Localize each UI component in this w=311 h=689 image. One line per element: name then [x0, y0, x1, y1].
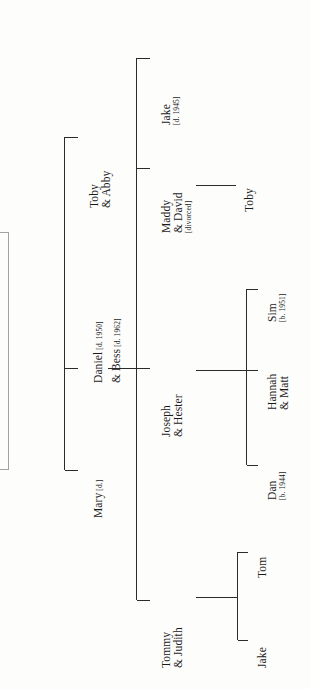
- person-jake-child[interactable]: Jake: [256, 647, 268, 668]
- person-dan[interactable]: Dan [b. 1944]: [266, 472, 287, 500]
- person-daniel-bess[interactable]: Daniel[d. 1950] & Bess[d. 1962]: [88, 318, 124, 383]
- person-tom[interactable]: Tom: [256, 557, 268, 578]
- person-name-2: & Bess: [110, 349, 122, 383]
- person-name-1: Hannah: [266, 374, 278, 410]
- person-row-2: & Bess[d. 1962]: [106, 318, 124, 383]
- person-hannah-matt[interactable]: Hannah & Matt: [266, 374, 290, 410]
- person-name-1: Toby: [88, 171, 100, 208]
- person-toby-child[interactable]: Toby: [243, 188, 255, 212]
- person-name: Sim: [266, 294, 278, 322]
- person-sim[interactable]: Sim [b. 1951]: [266, 294, 287, 322]
- person-name-2: & Abby: [100, 171, 112, 208]
- person-name: Jake: [160, 97, 172, 125]
- person-row-1: Daniel[d. 1950]: [88, 318, 106, 383]
- person-joseph-hester[interactable]: Joseph & Hester: [160, 394, 184, 437]
- person-annotation: [d.]: [95, 480, 104, 491]
- person-name: Toby: [243, 188, 255, 212]
- person-mary[interactable]: Mary[d.]: [88, 480, 106, 518]
- connector-lines: [0, 0, 311, 689]
- person-row-1: Mary[d.]: [88, 480, 106, 518]
- person-name-1: Tommy: [160, 627, 172, 668]
- person-tommy-judith[interactable]: Tommy & Judith: [160, 627, 184, 668]
- person-name-1: Maddy: [160, 192, 172, 233]
- person-name-1: Joseph: [160, 394, 172, 437]
- person-jake-1945[interactable]: Jake [d. 1945]: [160, 97, 181, 125]
- person-toby-abby[interactable]: Toby & Abby: [88, 171, 112, 208]
- family-tree-diagram: Jake [d. 1945] Maddy & David [divorced] …: [0, 0, 311, 689]
- person-annotation: [b. 1951]: [278, 294, 287, 322]
- person-name-2: & Matt: [278, 374, 290, 410]
- person-name: Tom: [256, 557, 268, 578]
- offscreen-ancestor-bracket: [0, 232, 9, 470]
- person-maddy-david[interactable]: Maddy & David [divorced]: [160, 192, 193, 233]
- person-annotation: [divorced]: [184, 192, 193, 233]
- person-name-2: & Judith: [172, 627, 184, 668]
- person-annotation: [d. 1945]: [172, 97, 181, 125]
- person-name-2: & David: [172, 192, 184, 233]
- person-name: Dan: [266, 472, 278, 500]
- person-name-1: Daniel: [92, 352, 104, 383]
- person-annotation-1: [d. 1950]: [95, 321, 104, 349]
- person-name: Mary: [92, 493, 104, 518]
- person-name-2: & Hester: [172, 394, 184, 437]
- person-name: Jake: [256, 647, 268, 668]
- person-annotation: [b. 1944]: [278, 472, 287, 500]
- person-annotation-2: [d. 1962]: [113, 318, 122, 346]
